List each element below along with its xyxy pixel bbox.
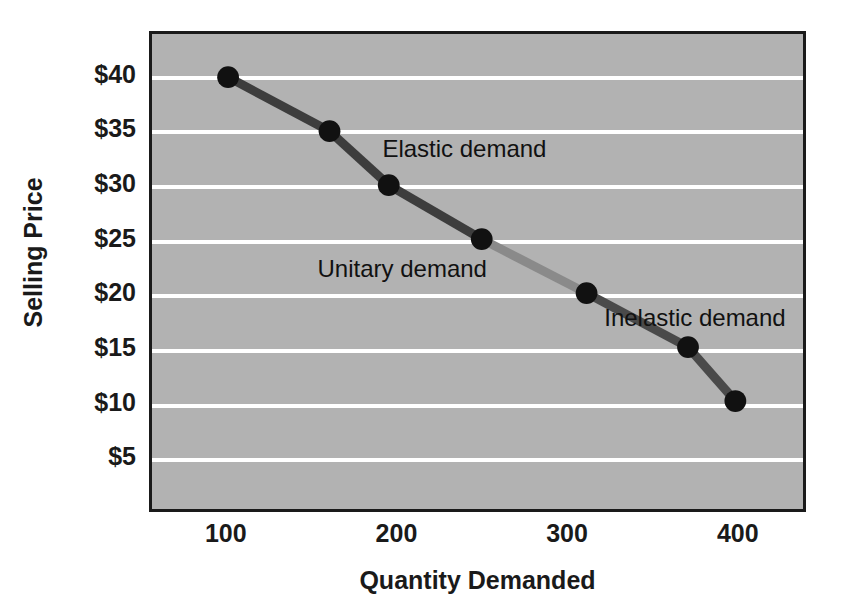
y-axis-tick-label: $40 [52, 62, 136, 87]
annotation-elastic-demand: Elastic demand [382, 137, 546, 161]
demand-curve-chart: Selling Price $40$35$30$25$20$15$10$5 El… [0, 0, 853, 606]
series-segment [330, 131, 389, 185]
y-axis-tick-label: $25 [52, 226, 136, 251]
data-point-marker [471, 228, 493, 250]
data-point-marker [378, 174, 400, 196]
plot-area: Elastic demand Unitary demand Inelastic … [149, 31, 806, 512]
y-axis-tick-label: $15 [52, 335, 136, 360]
x-axis-tick-label: 300 [512, 519, 622, 548]
annotation-inelastic-demand: Inelastic demand [604, 306, 785, 330]
data-point-marker [576, 282, 598, 304]
data-point-marker [217, 66, 239, 88]
y-axis-tick-labels: $40$35$30$25$20$15$10$5 [26, 31, 136, 512]
data-point-marker [724, 390, 746, 412]
series-segment [482, 239, 587, 293]
x-axis-tick-label: 100 [171, 519, 281, 548]
y-axis-tick-label: $35 [52, 116, 136, 141]
series-segment [389, 185, 482, 239]
y-axis-tick-label: $30 [52, 171, 136, 196]
x-axis-title: Quantity Demanded [149, 566, 806, 595]
x-axis-tick-labels: 100200300400 [149, 519, 806, 553]
x-axis-tick-label: 400 [683, 519, 793, 548]
series-segment [228, 77, 329, 131]
data-point-marker [319, 120, 341, 142]
y-axis-tick-label: $5 [52, 444, 136, 469]
data-point-marker [677, 336, 699, 358]
annotation-unitary-demand: Unitary demand [318, 257, 487, 281]
y-axis-tick-label: $20 [52, 280, 136, 305]
y-axis-tick-label: $10 [52, 390, 136, 415]
x-axis-tick-label: 200 [341, 519, 451, 548]
